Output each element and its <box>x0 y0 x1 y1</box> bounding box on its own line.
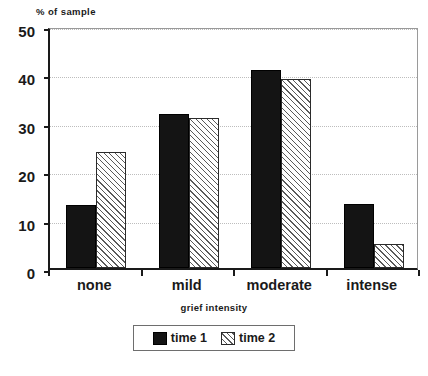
plot-area: 01020304050 <box>48 28 418 270</box>
y-axis-tick-label: 40 <box>18 72 35 87</box>
x-axis-title: grief intensity <box>0 302 428 313</box>
bar-none-time-2[interactable] <box>96 152 126 268</box>
bar-group <box>344 29 404 268</box>
x-axis-tick <box>418 270 420 276</box>
bar-intense-time-2[interactable] <box>374 244 404 268</box>
category-label-none: none <box>77 277 112 293</box>
bar-intense-time-1[interactable] <box>344 204 374 268</box>
y-axis-tick-label: 0 <box>27 266 35 281</box>
legend: time 1time 2 <box>133 325 295 351</box>
y-axis-tick-label: 50 <box>18 24 35 39</box>
bar-none-time-1[interactable] <box>66 205 96 268</box>
x-axis-tick <box>326 270 328 276</box>
legend-swatch-time-1 <box>153 332 167 345</box>
bar-mild-time-1[interactable] <box>159 114 189 268</box>
category-label-mild: mild <box>172 277 202 293</box>
figure: % of sample 01020304050 nonemildmoderate… <box>0 0 428 376</box>
bar-moderate-time-1[interactable] <box>251 70 281 268</box>
bar-group <box>66 29 126 268</box>
y-axis-tick-label: 10 <box>18 217 35 232</box>
x-axis-tick <box>233 270 235 276</box>
bar-moderate-time-2[interactable] <box>281 79 311 268</box>
y-axis-tick-label: 30 <box>18 120 35 135</box>
x-axis-tick <box>141 270 143 276</box>
bars-layer <box>50 29 417 268</box>
legend-swatch-time-2 <box>221 332 235 345</box>
x-axis-tick <box>48 270 50 276</box>
category-label-intense: intense <box>346 277 397 293</box>
category-label-moderate: moderate <box>247 277 312 293</box>
y-axis-title: % of sample <box>36 6 96 17</box>
legend-item-time-1[interactable]: time 1 <box>153 331 207 345</box>
legend-label: time 1 <box>171 331 207 345</box>
bar-group <box>159 29 219 268</box>
y-axis-tick-label: 20 <box>18 169 35 184</box>
bar-group <box>251 29 311 268</box>
legend-item-time-2[interactable]: time 2 <box>221 331 275 345</box>
bar-mild-time-2[interactable] <box>189 118 219 268</box>
legend-label: time 2 <box>239 331 275 345</box>
